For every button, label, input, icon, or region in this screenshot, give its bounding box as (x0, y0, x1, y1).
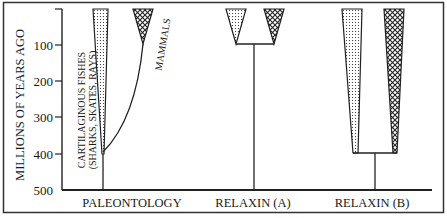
cartilaginous-fishes-label: CARTILAGINOUS FISHES (76, 52, 87, 168)
relaxin-b-hatched-wedge (384, 9, 404, 153)
paleontology-label: PALEONTOLOGY (82, 196, 181, 210)
y-tick-100: 100 (34, 38, 54, 53)
y-tick-200: 200 (34, 74, 54, 89)
y-tick-400: 400 (34, 147, 54, 162)
y-tick-300: 300 (34, 110, 54, 125)
relaxin-b-dotted-wedge (342, 9, 362, 153)
relaxin-a-dotted-wedge (226, 9, 246, 44)
y-axis-title: MILLIONS OF YEARS AGO (13, 29, 27, 181)
mammals-label: MAMMALS (153, 17, 173, 71)
panel-relaxin-b: RELAXIN (B) (335, 9, 410, 210)
relaxin-a-label: RELAXIN (A) (215, 196, 290, 210)
cartilaginous-fishes-sublabel: (SHARKS, SKATES, RAYS) (87, 51, 99, 170)
relaxin-a-hatched-wedge (264, 9, 284, 44)
y-tick-500: 500 (34, 183, 54, 198)
figure-frame (4, 3, 444, 213)
relaxin-b-label: RELAXIN (B) (335, 196, 410, 210)
panel-relaxin-a: RELAXIN (A) (215, 9, 290, 210)
y-axis: 100 200 300 400 500 MILLIONS OF YEARS AG… (13, 9, 62, 198)
mammals-branch-curve (103, 44, 143, 152)
phylogeny-diagram: 100 200 300 400 500 MILLIONS OF YEARS AG… (0, 0, 447, 218)
panel-paleontology: CARTILAGINOUS FISHES (SHARKS, SKATES, RA… (76, 9, 182, 210)
mammals-wedge (133, 9, 153, 44)
